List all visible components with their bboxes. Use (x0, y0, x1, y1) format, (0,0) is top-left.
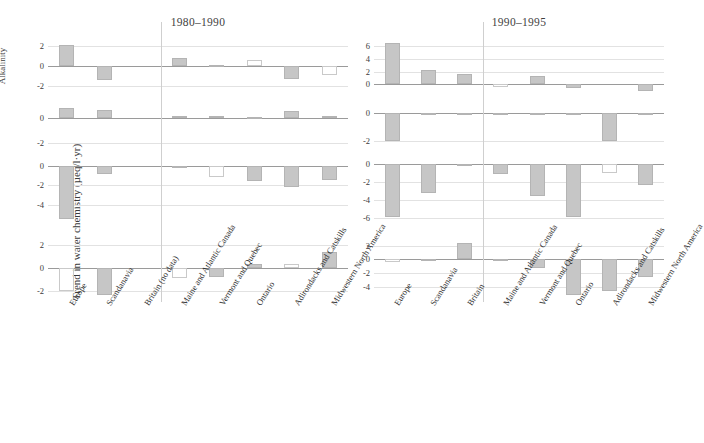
bar (97, 268, 112, 295)
bar (385, 164, 400, 216)
bar (421, 164, 436, 193)
bar (97, 166, 112, 174)
bar (530, 164, 545, 195)
y-tick-label: -2 (22, 180, 44, 190)
panel-group-1980-1990: 1980–1990-202Alkalinity-20NO3--4-20SO42-… (0, 0, 352, 443)
subpanel-no3-: -20NO3- (48, 104, 348, 150)
bar (602, 164, 617, 172)
bar (322, 66, 337, 75)
bar (209, 116, 224, 118)
y-tick-label: -4 (22, 200, 44, 210)
bar (247, 166, 262, 182)
bar (284, 166, 299, 187)
panel-title: 1990–1995 (374, 16, 664, 28)
y-tick-label: -4 (348, 282, 370, 292)
bar (322, 116, 337, 118)
bar (385, 259, 400, 262)
bar (530, 113, 545, 115)
y-tick-label: -4 (348, 195, 370, 205)
y-tick-label: -2 (22, 286, 44, 296)
bar (457, 113, 472, 115)
bar (322, 166, 337, 181)
bar (638, 84, 653, 90)
bar (385, 43, 400, 84)
bar (172, 116, 187, 118)
y-tick-label: -6 (348, 213, 370, 223)
bar (457, 74, 472, 84)
bar (284, 264, 299, 268)
bar (566, 164, 581, 216)
gridline (48, 86, 348, 87)
bar (421, 259, 436, 261)
bar (493, 113, 508, 115)
bar (59, 108, 74, 117)
y-tick-label: -2 (22, 81, 44, 91)
bar (602, 113, 617, 142)
gridline (374, 72, 664, 73)
bar (566, 113, 581, 115)
y-tick-label: -2 (22, 138, 44, 148)
y-tick-label: 2 (22, 41, 44, 51)
bar (209, 65, 224, 67)
bar (602, 259, 617, 291)
y-tick-label: 2 (348, 241, 370, 251)
bar (247, 117, 262, 119)
bar (530, 76, 545, 84)
y-tick-label: -2 (348, 177, 370, 187)
y-tick-label: 2 (348, 67, 370, 77)
gridline (374, 200, 664, 201)
gridline (48, 185, 348, 186)
subpanel-alkalinity: 0246 (374, 40, 664, 92)
bar (457, 164, 472, 166)
bar (59, 166, 74, 219)
row-label-alkalinity: Alkalinity (0, 48, 7, 85)
y-tick-label: 0 (22, 161, 44, 171)
panel-title: 1980–1990 (48, 16, 348, 28)
y-tick-label: 6 (348, 41, 370, 51)
bar (97, 66, 112, 80)
bar (284, 111, 299, 117)
bar (566, 84, 581, 87)
bar (493, 259, 508, 261)
bar (638, 113, 653, 115)
bar (284, 66, 299, 79)
y-tick-label: -2 (348, 268, 370, 278)
zero-axis-line (374, 164, 664, 165)
gridline (48, 143, 348, 144)
y-tick-label: 0 (348, 159, 370, 169)
gridline (374, 46, 664, 47)
gridline (374, 246, 664, 247)
bar (59, 268, 74, 291)
bar (209, 166, 224, 178)
region-divider (161, 22, 162, 302)
y-tick-label: 0 (348, 79, 370, 89)
subpanel-so42-: -4-20SO42- (48, 160, 348, 222)
subpanel-no3-: -20 (374, 104, 664, 150)
y-tick-label: 2 (22, 240, 44, 250)
bar (421, 70, 436, 84)
gridline (374, 59, 664, 60)
bar (385, 113, 400, 142)
bar (59, 45, 74, 66)
zero-axis-line (48, 118, 348, 119)
zero-axis-line (48, 166, 348, 167)
bar (209, 268, 224, 277)
gridline (374, 141, 664, 142)
y-tick-label: -2 (348, 136, 370, 146)
bar (172, 166, 187, 168)
y-tick-label: 0 (348, 254, 370, 264)
gridline (374, 182, 664, 183)
bar (457, 243, 472, 259)
zero-axis-line (48, 66, 348, 67)
zero-axis-line (374, 113, 664, 114)
gridline (48, 205, 348, 206)
zero-axis-line (48, 268, 348, 269)
subpanel-alkalinity: -202Alkalinity (48, 40, 348, 92)
gridline (48, 46, 348, 47)
bar (421, 113, 436, 115)
y-tick-label: 0 (22, 113, 44, 123)
y-tick-label: 0 (22, 61, 44, 71)
panel-group-1990-1995: 1990–19950246-20-6-4-20-4-202EuropeScand… (352, 0, 669, 443)
bar (493, 84, 508, 86)
